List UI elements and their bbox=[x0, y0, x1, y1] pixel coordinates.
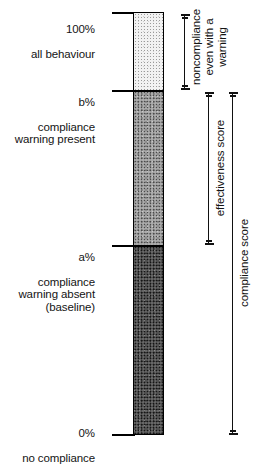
axis-label-zero: 0% no compliance bbox=[0, 414, 95, 468]
tick-line-zero bbox=[112, 434, 135, 436]
arrowhead-bottom-inner-icon bbox=[182, 85, 188, 87]
axis-label-100: 100% all behaviour bbox=[3, 10, 95, 73]
arrowhead-bottom-inner-icon bbox=[230, 430, 236, 432]
arrowhead-bottom-icon bbox=[229, 433, 238, 435]
axis-label-zero-description: no compliance bbox=[0, 452, 95, 465]
axis-label-zero-percent: 0% bbox=[0, 427, 95, 440]
bar-segment-noncompliance bbox=[134, 13, 163, 91]
axis-label-100-description: all behaviour bbox=[3, 48, 95, 61]
arrowhead-bottom-icon bbox=[181, 88, 190, 90]
annotation-compliance-label: compliance score bbox=[238, 90, 251, 436]
axis-label-a: a% compliance warning absent (baseline) bbox=[0, 238, 95, 326]
arrowhead-top-icon bbox=[229, 92, 238, 94]
axis-label-b: b% compliance warning present bbox=[3, 83, 95, 159]
arrowhead-bottom-inner-icon bbox=[206, 240, 212, 242]
compliance-bar bbox=[133, 12, 164, 435]
arrow-noncompliance bbox=[184, 14, 185, 90]
arrowhead-bottom-icon bbox=[205, 243, 214, 245]
bar-segment-warning-effect bbox=[134, 91, 163, 246]
axis-label-b-description: compliance warning present bbox=[3, 121, 95, 146]
bar-divider-b bbox=[133, 90, 164, 92]
bar-divider-a bbox=[133, 245, 164, 247]
arrowhead-top-inner-icon bbox=[206, 95, 212, 97]
tick-line-a bbox=[112, 245, 135, 247]
arrow-effectiveness bbox=[208, 92, 209, 245]
tick-line-b bbox=[112, 90, 135, 92]
axis-label-100-percent: 100% bbox=[3, 23, 95, 36]
arrowhead-top-icon bbox=[181, 14, 190, 16]
annotation-effectiveness-label: effectiveness score bbox=[214, 90, 227, 246]
arrowhead-top-inner-icon bbox=[182, 17, 188, 19]
bar-segment-baseline-compliance bbox=[134, 246, 163, 435]
arrow-compliance bbox=[232, 92, 233, 435]
arrowhead-top-icon bbox=[205, 92, 214, 94]
axis-label-a-description: compliance warning absent (baseline) bbox=[0, 276, 95, 314]
arrowhead-top-inner-icon bbox=[230, 95, 236, 97]
tick-line-100 bbox=[112, 12, 135, 14]
annotation-noncompliance-label: noncompliance even with a warning bbox=[190, 2, 228, 92]
axis-label-b-percent: b% bbox=[3, 96, 95, 109]
axis-label-a-percent: a% bbox=[0, 251, 95, 264]
